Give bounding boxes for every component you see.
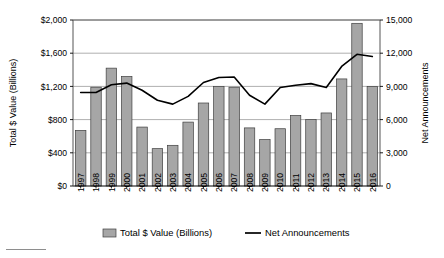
xtick-label-2016: 2016 xyxy=(368,173,378,192)
ytick-label-left-1600: $1,600 xyxy=(41,48,68,58)
xtick-label-2004: 2004 xyxy=(183,173,193,192)
ytick-label-left-2000: $2,000 xyxy=(41,15,68,25)
xtick-label-2010: 2010 xyxy=(275,173,285,192)
legend-label-total-value: Total $ Value (Billions) xyxy=(120,227,212,238)
xtick-label-2008: 2008 xyxy=(245,173,255,192)
combo-chart: $0$400$800$1,200$1,600$2,00003,0006,0009… xyxy=(0,0,444,258)
ytick-label-left-800: $800 xyxy=(48,115,67,125)
xtick-label-2007: 2007 xyxy=(229,173,239,192)
legend-swatch-total-value xyxy=(103,229,116,237)
ytick-label-left-1200: $1,200 xyxy=(41,82,68,92)
xtick-label-2012: 2012 xyxy=(306,173,316,192)
xtick-label-2003: 2003 xyxy=(168,173,178,192)
ytick-label-left-400: $400 xyxy=(48,148,67,158)
xtick-label-2001: 2001 xyxy=(137,173,147,192)
ytick-label-right-15000: 15,000 xyxy=(386,15,413,25)
footer-divider xyxy=(6,249,46,250)
xtick-label-2000: 2000 xyxy=(122,173,132,192)
ytick-label-right-0: 0 xyxy=(386,181,391,191)
xtick-label-2009: 2009 xyxy=(260,173,270,192)
xtick-label-1999: 1999 xyxy=(107,173,117,192)
xtick-label-2011: 2011 xyxy=(291,173,301,192)
xtick-label-2005: 2005 xyxy=(199,173,209,192)
bar-2015 xyxy=(352,23,362,186)
y-axis-title-left: Total $ Value (Billions) xyxy=(8,59,18,147)
xtick-label-2013: 2013 xyxy=(321,173,331,192)
xtick-label-2014: 2014 xyxy=(337,173,347,192)
xtick-label-2006: 2006 xyxy=(214,173,224,192)
bar-2007 xyxy=(229,87,239,186)
bar-2006 xyxy=(214,86,224,186)
y-axis-title-right: Net Announcements xyxy=(420,62,430,144)
ytick-label-right-3000: 3,000 xyxy=(386,148,408,158)
ytick-label-right-6000: 6,000 xyxy=(386,115,408,125)
ytick-label-right-9000: 9,000 xyxy=(386,82,408,92)
chart-container: $0$400$800$1,200$1,600$2,00003,0006,0009… xyxy=(0,0,444,258)
ytick-label-left-0: $0 xyxy=(57,181,67,191)
bar-2014 xyxy=(336,79,346,186)
bar-2016 xyxy=(367,86,377,186)
xtick-label-2002: 2002 xyxy=(153,173,163,192)
ytick-label-right-12000: 12,000 xyxy=(386,48,413,58)
xtick-label-1998: 1998 xyxy=(91,173,101,192)
xtick-label-1997: 1997 xyxy=(76,173,86,192)
bar-2000 xyxy=(122,76,132,186)
xtick-label-2015: 2015 xyxy=(352,173,362,192)
bar-1998 xyxy=(91,87,101,186)
legend-label-net-announcements: Net Announcements xyxy=(265,227,350,238)
plot-area xyxy=(73,20,380,186)
